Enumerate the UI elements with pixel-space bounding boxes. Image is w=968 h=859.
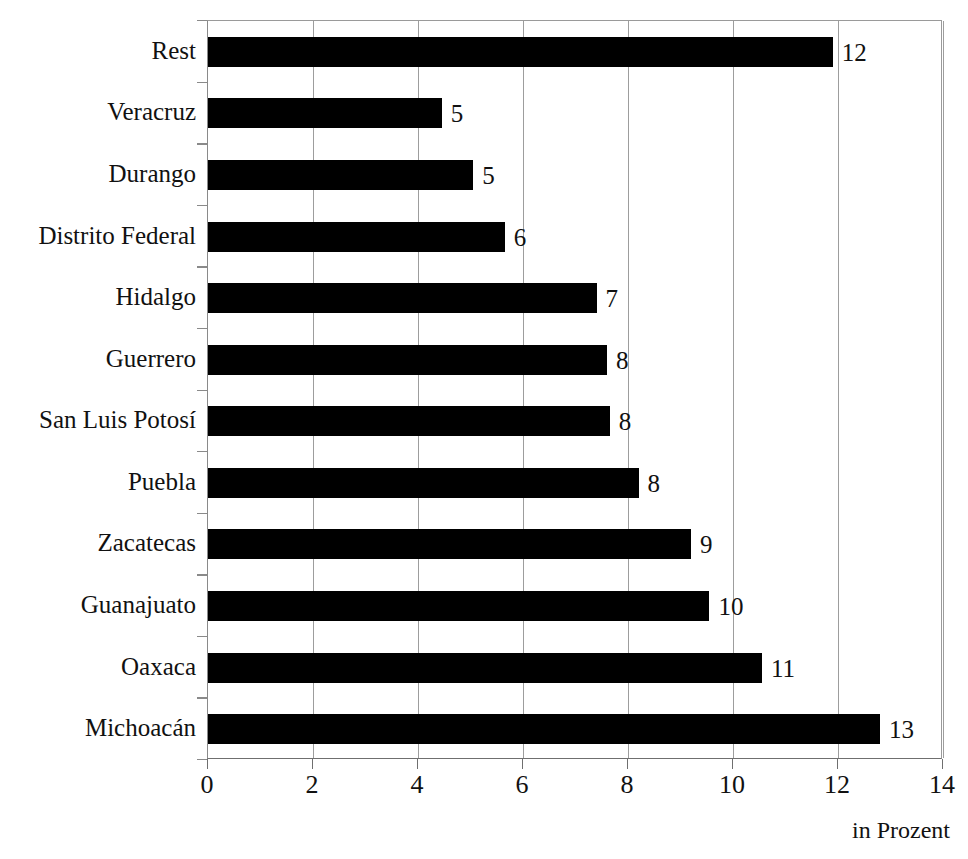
bar-value-label: 5 bbox=[451, 101, 464, 126]
category-label: Rest bbox=[0, 38, 196, 63]
bar[interactable] bbox=[208, 591, 709, 621]
category-label: San Luis Potosí bbox=[0, 407, 196, 432]
x-axis-tick bbox=[837, 759, 838, 769]
bar-band: 9 bbox=[208, 514, 941, 576]
bar[interactable] bbox=[208, 283, 597, 313]
category-label: Guanajuato bbox=[0, 592, 196, 617]
category-label: Hidalgo bbox=[0, 284, 196, 309]
bar-band: 10 bbox=[208, 575, 941, 637]
bar[interactable] bbox=[208, 468, 639, 498]
x-axis-tick-label: 10 bbox=[719, 772, 745, 798]
bar-band: 12 bbox=[208, 21, 941, 83]
bar[interactable] bbox=[208, 160, 473, 190]
category-label: Puebla bbox=[0, 469, 196, 494]
bar-value-label: 10 bbox=[718, 594, 743, 619]
bar[interactable] bbox=[208, 37, 833, 67]
bar-value-label: 13 bbox=[889, 717, 914, 742]
category-label: Guerrero bbox=[0, 346, 196, 371]
bar[interactable] bbox=[208, 653, 762, 683]
x-axis-tick bbox=[207, 759, 208, 769]
x-axis-tick-label: 0 bbox=[201, 772, 214, 798]
bar-value-label: 5 bbox=[482, 162, 495, 187]
bar-value-label: 6 bbox=[514, 224, 527, 249]
x-axis-tick bbox=[627, 759, 628, 769]
bar-band: 8 bbox=[208, 391, 941, 453]
x-axis-tick-label: 12 bbox=[824, 772, 850, 798]
gridline bbox=[943, 21, 944, 758]
x-axis-tick-label: 2 bbox=[306, 772, 319, 798]
x-axis-tick bbox=[417, 759, 418, 769]
category-label: Michoacán bbox=[0, 715, 196, 740]
bar[interactable] bbox=[208, 714, 880, 744]
bar-band: 13 bbox=[208, 698, 941, 760]
y-axis-tick bbox=[197, 759, 207, 760]
x-axis-tick bbox=[942, 759, 943, 769]
bar-value-label: 8 bbox=[616, 347, 629, 372]
bar-band: 8 bbox=[208, 329, 941, 391]
category-label: Distrito Federal bbox=[0, 223, 196, 248]
category-label: Veracruz bbox=[0, 99, 196, 124]
category-label: Oaxaca bbox=[0, 654, 196, 679]
bar-band: 7 bbox=[208, 267, 941, 329]
bar-value-label: 7 bbox=[606, 286, 619, 311]
bar-value-label: 8 bbox=[619, 409, 632, 434]
x-axis-tick-label: 8 bbox=[621, 772, 634, 798]
bar-value-label: 11 bbox=[771, 655, 795, 680]
category-label: Zacatecas bbox=[0, 530, 196, 555]
category-label: Durango bbox=[0, 161, 196, 186]
plot-area: 1255678889101113 bbox=[207, 20, 942, 759]
bar[interactable] bbox=[208, 98, 442, 128]
x-axis-tick bbox=[522, 759, 523, 769]
bar-band: 11 bbox=[208, 637, 941, 699]
bar-value-label: 9 bbox=[700, 532, 713, 557]
x-axis-tick bbox=[312, 759, 313, 769]
bar-value-label: 8 bbox=[648, 470, 661, 495]
bar[interactable] bbox=[208, 222, 505, 252]
x-axis-tick bbox=[732, 759, 733, 769]
x-axis-tick-label: 14 bbox=[929, 772, 955, 798]
bar-chart: RestVeracruzDurangoDistrito FederalHidal… bbox=[0, 0, 968, 859]
bar[interactable] bbox=[208, 345, 607, 375]
x-axis-caption: in Prozent bbox=[852, 818, 950, 842]
bar[interactable] bbox=[208, 529, 691, 559]
bar-band: 6 bbox=[208, 206, 941, 268]
x-axis-tick-label: 4 bbox=[411, 772, 424, 798]
bar-value-label: 12 bbox=[842, 39, 867, 64]
bar[interactable] bbox=[208, 406, 610, 436]
x-axis-tick-label: 6 bbox=[516, 772, 529, 798]
bar-band: 5 bbox=[208, 83, 941, 145]
bar-band: 8 bbox=[208, 452, 941, 514]
bar-band: 5 bbox=[208, 144, 941, 206]
